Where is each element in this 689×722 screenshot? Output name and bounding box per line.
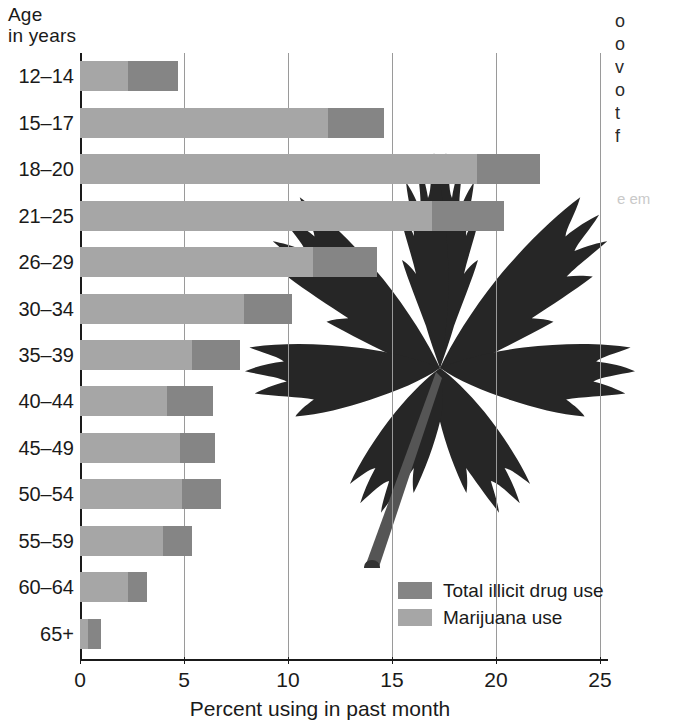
bar-marijuana-use <box>80 340 192 370</box>
bar-marijuana-use <box>80 433 180 463</box>
x-axis-tick-label: 15 <box>380 668 403 692</box>
y-axis-tick-label: 15–17 <box>18 111 74 134</box>
x-axis-tick-label: 10 <box>276 668 299 692</box>
y-axis-tick-label: 50–54 <box>18 483 74 506</box>
x-axis-tick <box>184 657 185 664</box>
bar-marijuana-use <box>80 526 163 556</box>
bar-marijuana-use <box>80 61 128 91</box>
legend-swatch-mj <box>398 609 432 626</box>
chart-figure: Age in years o o v o t f e em 12–1415–17… <box>0 0 689 722</box>
bar-group <box>80 386 600 416</box>
y-axis-tick-label: 18–20 <box>18 158 74 181</box>
page-bleed-text: o o v o t f <box>615 10 685 148</box>
legend-label: Marijuana use <box>443 607 562 629</box>
bar-group <box>80 479 600 509</box>
legend-item: Marijuana use <box>398 605 604 630</box>
bar-group <box>80 340 600 370</box>
y-axis-tick-label: 65+ <box>40 622 74 645</box>
bar-marijuana-use <box>80 201 432 231</box>
y-axis-tick-label: 55–59 <box>18 529 74 552</box>
gridline <box>600 53 601 657</box>
bar-group <box>80 108 600 138</box>
y-axis-tick-labels: 12–1415–1718–2021–2526–2930–3435–3940–44… <box>0 53 74 657</box>
bar-marijuana-use <box>80 154 477 184</box>
bar-marijuana-use <box>80 108 328 138</box>
x-axis-tick <box>600 657 601 664</box>
x-axis-tick-label: 0 <box>74 668 86 692</box>
page-bleed-text-faint: e em <box>617 190 683 207</box>
y-axis-tick-label: 26–29 <box>18 251 74 274</box>
plot-area <box>80 53 600 657</box>
bar-group <box>80 526 600 556</box>
x-axis-label: Percent using in past month <box>0 697 640 721</box>
y-axis-tick-label: 40–44 <box>18 390 74 413</box>
y-axis-tick-label: 35–39 <box>18 344 74 367</box>
bar-group <box>80 294 600 324</box>
legend-label: Total illicit drug use <box>443 580 604 602</box>
bar-group <box>80 201 600 231</box>
bar-marijuana-use <box>80 247 313 277</box>
bar-group <box>80 154 600 184</box>
bar-marijuana-use <box>80 294 244 324</box>
x-axis-tick <box>392 657 393 664</box>
y-axis-tick-label: 45–49 <box>18 436 74 459</box>
bar-group <box>80 433 600 463</box>
x-axis-tick-label: 5 <box>178 668 190 692</box>
x-axis-tick <box>80 657 81 664</box>
y-axis-title: Age in years <box>8 4 76 46</box>
x-axis-tick-label: 25 <box>588 668 611 692</box>
legend-item: Total illicit drug use <box>398 578 604 603</box>
y-axis-tick-label: 21–25 <box>18 204 74 227</box>
chart-legend: Total illicit drug useMarijuana use <box>398 578 604 632</box>
bar-group <box>80 247 600 277</box>
x-axis-line <box>80 659 608 661</box>
bar-marijuana-use <box>80 572 128 602</box>
bar-marijuana-use <box>80 619 88 649</box>
legend-swatch-total <box>398 582 432 599</box>
y-axis-tick-label: 60–64 <box>18 576 74 599</box>
bar-marijuana-use <box>80 386 167 416</box>
x-axis-tick-label: 20 <box>484 668 507 692</box>
x-axis-tick <box>496 657 497 664</box>
y-axis-tick-label: 30–34 <box>18 297 74 320</box>
y-axis-tick-label: 12–14 <box>18 65 74 88</box>
bar-group <box>80 61 600 91</box>
bar-marijuana-use <box>80 479 182 509</box>
x-axis-tick <box>288 657 289 664</box>
